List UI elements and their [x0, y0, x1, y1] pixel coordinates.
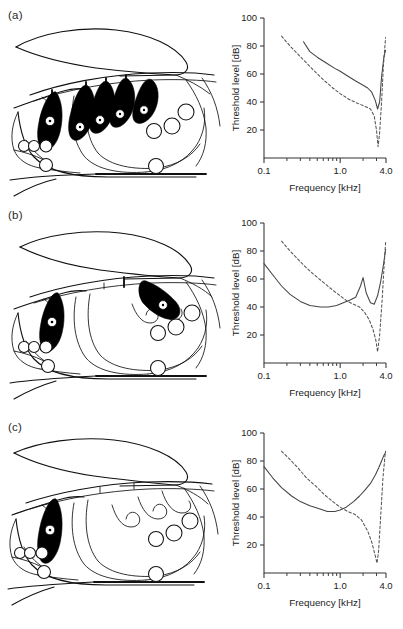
- anatomical-diagram-a: [0, 0, 228, 209]
- y-tick-label: 20: [246, 124, 257, 135]
- y-tick-label: 100: [241, 12, 257, 23]
- tuning-curve-dashed: [282, 241, 386, 352]
- chart-axes: [264, 433, 386, 573]
- tuning-curve-dashed: [282, 451, 386, 563]
- x-axis-label: Frequency [kHz]: [289, 597, 361, 608]
- x-tick-label: 4.0: [379, 370, 392, 381]
- tuning-curve-chart-c: 204060801000.11.04.0Frequency [kHz]Thres…: [226, 415, 403, 624]
- x-tick-label: 0.1: [257, 580, 270, 591]
- figure-panel-c: (c): [0, 415, 403, 624]
- x-axis-label: Frequency [kHz]: [289, 387, 361, 398]
- y-tick-label: 80: [246, 40, 257, 51]
- tuning-curve-chart-a: 204060801000.11.04.0Frequency [kHz]Thres…: [226, 0, 403, 209]
- x-tick-label: 0.1: [257, 165, 270, 176]
- y-tick-label: 40: [246, 511, 257, 522]
- figure-panel-b: (b): [0, 205, 403, 414]
- y-tick-label: 100: [241, 217, 257, 228]
- anatomical-diagram-c: [0, 415, 228, 624]
- x-tick-label: 1.0: [334, 165, 347, 176]
- y-axis-label: Threshold level [dB]: [230, 249, 241, 336]
- y-tick-label: 80: [246, 245, 257, 256]
- tuning-curve-dashed: [282, 36, 386, 147]
- tuning-curve-solid: [303, 42, 385, 109]
- x-axis-label: Frequency [kHz]: [289, 182, 361, 193]
- anatomical-diagram-b: [0, 205, 228, 414]
- x-tick-label: 1.0: [334, 370, 347, 381]
- y-tick-label: 60: [246, 483, 257, 494]
- tuning-curve-chart-b: 204060801000.11.04.0Frequency [kHz]Thres…: [226, 205, 403, 414]
- x-tick-label: 4.0: [379, 580, 392, 591]
- chart-axes: [264, 223, 386, 363]
- y-tick-label: 20: [246, 539, 257, 550]
- x-tick-label: 4.0: [379, 165, 392, 176]
- y-tick-label: 40: [246, 301, 257, 312]
- tuning-curve-solid: [264, 250, 386, 307]
- x-tick-label: 0.1: [257, 370, 270, 381]
- y-axis-label: Threshold level [dB]: [230, 44, 241, 131]
- y-tick-label: 80: [246, 455, 257, 466]
- y-axis-label: Threshold level [dB]: [230, 459, 241, 546]
- y-tick-label: 40: [246, 96, 257, 107]
- y-tick-label: 100: [241, 427, 257, 438]
- figure-panel-a: (a): [0, 0, 403, 209]
- y-tick-label: 60: [246, 273, 257, 284]
- stained-organ-group-a: [38, 78, 159, 150]
- y-tick-label: 60: [246, 68, 257, 79]
- y-tick-label: 20: [246, 329, 257, 340]
- x-tick-label: 1.0: [334, 580, 347, 591]
- tuning-curve-solid: [264, 453, 386, 512]
